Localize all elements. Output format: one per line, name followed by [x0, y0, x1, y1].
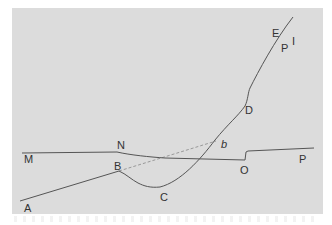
caption-cutoff: [14, 216, 319, 222]
line-mnop: [22, 148, 314, 160]
label-a: A: [24, 202, 32, 214]
label-d: D: [245, 104, 253, 116]
label-n: N: [117, 139, 125, 151]
label-b-lower: b: [221, 138, 227, 150]
line-ab: [20, 171, 119, 201]
label-b: B: [114, 160, 121, 172]
label-o: O: [240, 164, 249, 176]
label-p-right: P: [299, 153, 306, 165]
curve-bcde: [119, 17, 293, 187]
diagram-canvas: A B C D E P I M N b O P: [0, 0, 332, 225]
label-p-upper: P: [281, 42, 288, 54]
label-c: C: [160, 191, 168, 203]
label-i: I: [292, 35, 295, 47]
label-e: E: [272, 27, 279, 39]
label-m: M: [24, 153, 33, 165]
